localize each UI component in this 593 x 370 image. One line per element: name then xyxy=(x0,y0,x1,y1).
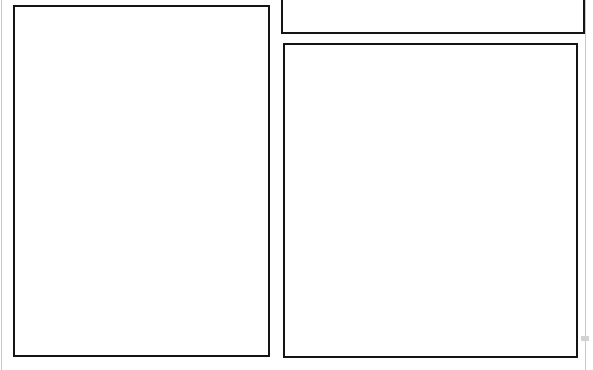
page-canvas xyxy=(0,0,593,370)
left-panel-frame xyxy=(13,5,270,357)
left-edge-rule xyxy=(1,0,2,370)
upper-right-panel-frame xyxy=(281,0,585,34)
right-edge-notch-mark xyxy=(581,336,589,341)
right-edge-rule xyxy=(585,0,586,370)
lower-right-panel-frame xyxy=(283,43,578,358)
